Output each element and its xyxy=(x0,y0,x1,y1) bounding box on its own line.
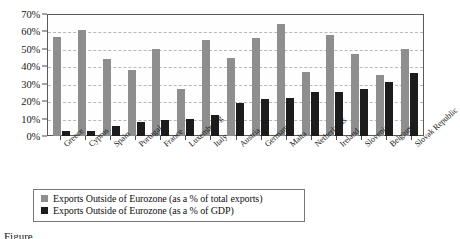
bar xyxy=(252,38,260,136)
legend-swatch-icon xyxy=(41,207,48,214)
bar xyxy=(311,92,319,136)
bar-group xyxy=(148,14,173,136)
y-axis-tick-label: 40% xyxy=(21,61,40,72)
y-axis-tick-label: 70% xyxy=(21,9,40,20)
bar-group xyxy=(248,14,273,136)
figure-caption-partial: Figure xyxy=(4,230,33,239)
bar xyxy=(227,58,235,136)
legend-item: Exports Outside of Eurozone (as a % of t… xyxy=(41,193,297,205)
plot-area xyxy=(47,14,424,136)
bar xyxy=(302,72,310,136)
x-axis-tick-mark xyxy=(60,136,61,140)
bar xyxy=(78,30,86,136)
x-axis-tick-mark xyxy=(135,136,136,140)
bar-group xyxy=(347,14,372,136)
bar xyxy=(277,24,285,136)
bar xyxy=(261,99,269,136)
x-axis-tick-mark xyxy=(210,136,211,140)
y-axis-tick-label: 60% xyxy=(21,26,40,37)
bar xyxy=(360,89,368,136)
legend-item-label: Exports Outside of Eurozone (as a % of t… xyxy=(53,193,262,205)
bar-group xyxy=(124,14,149,136)
y-axis-tick-label: 10% xyxy=(21,113,40,124)
bar xyxy=(103,59,111,136)
x-axis-tick-mark xyxy=(311,136,312,140)
x-axis-tick-mark xyxy=(85,136,86,140)
legend-swatch-icon xyxy=(41,195,48,202)
bar-group xyxy=(223,14,248,136)
bar xyxy=(128,70,136,136)
bar xyxy=(236,103,244,136)
bar xyxy=(53,37,61,136)
bar-group xyxy=(173,14,198,136)
chart-legend: Exports Outside of Eurozone (as a % of t… xyxy=(33,189,305,222)
bars-layer xyxy=(47,14,424,136)
bar xyxy=(137,122,145,136)
x-axis-tick-mark xyxy=(236,136,237,140)
x-axis-tick-mark xyxy=(286,136,287,140)
bar-group xyxy=(49,14,74,136)
x-axis-tick-mark xyxy=(110,136,111,140)
y-axis-tick-label: 20% xyxy=(21,96,40,107)
x-axis-tick-mark xyxy=(361,136,362,140)
x-axis-tick-mark xyxy=(185,136,186,140)
bar-group xyxy=(273,14,298,136)
bar xyxy=(326,35,334,136)
x-axis-tick-mark xyxy=(160,136,161,140)
y-axis-tick-label: 0% xyxy=(26,131,40,142)
x-axis: GreeceCyprusSpainPortugalFranceLuxembour… xyxy=(47,136,424,188)
bar-group xyxy=(372,14,397,136)
y-axis: 0%10%20%30%40%50%60%70% xyxy=(0,14,47,136)
bar-group xyxy=(99,14,124,136)
bar-group xyxy=(74,14,99,136)
legend-item: Exports Outside of Eurozone (as a % of G… xyxy=(41,205,297,217)
legend-item-label: Exports Outside of Eurozone (as a % of G… xyxy=(53,205,234,217)
bar xyxy=(351,54,359,136)
x-axis-tick-mark xyxy=(411,136,412,140)
x-axis-tick-mark xyxy=(336,136,337,140)
bar xyxy=(186,119,194,136)
y-axis-tick-label: 30% xyxy=(21,78,40,89)
x-axis-tick-mark xyxy=(386,136,387,140)
bar-group xyxy=(298,14,323,136)
bar-group xyxy=(397,14,422,136)
x-axis-tick-mark xyxy=(261,136,262,140)
y-axis-tick-label: 50% xyxy=(21,43,40,54)
